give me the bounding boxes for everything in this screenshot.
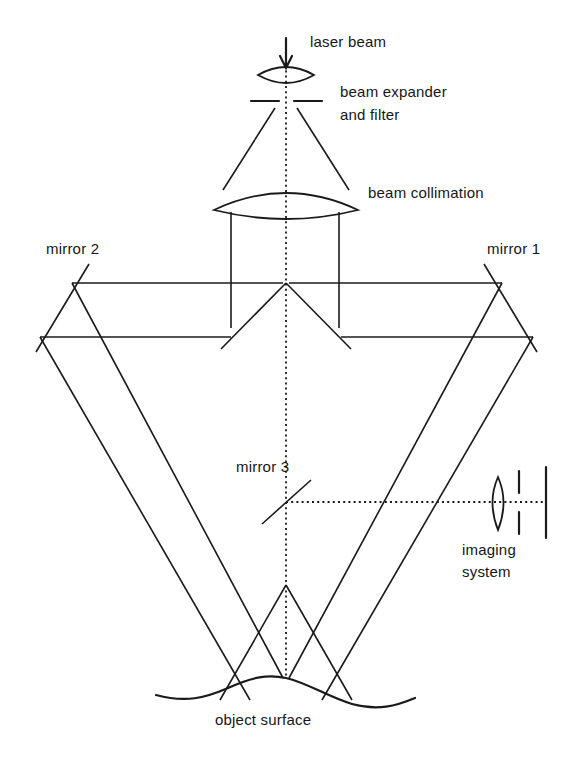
mirror-2 — [36, 264, 89, 352]
label-imaging-system-line1: imaging — [462, 540, 516, 560]
label-mirror-3: mirror 3 — [236, 457, 289, 476]
collimated-beam-edges — [231, 212, 339, 328]
mirror-1 — [484, 264, 537, 352]
diagram-canvas — [0, 0, 588, 763]
label-beam-collimation: beam collimation — [368, 183, 484, 202]
left-outer-beam — [72, 283, 283, 678]
label-and-filter: and filter — [340, 105, 400, 125]
label-beam-expander: beam expander — [340, 82, 447, 102]
label-mirror-1: mirror 1 — [487, 239, 540, 258]
object-surface — [156, 676, 415, 707]
label-object-surface: object surface — [215, 710, 311, 729]
laser-beam-arrow — [280, 38, 292, 68]
label-mirror-2: mirror 2 — [46, 239, 99, 258]
imaging-lens — [493, 477, 504, 530]
left-inner-beam — [40, 337, 250, 700]
right-outer-beam — [289, 283, 502, 678]
optical-diagram: laser beam beam expander and filter beam… — [0, 0, 588, 763]
label-laser-beam: laser beam — [310, 32, 386, 51]
label-imaging-system-line2: system — [462, 562, 511, 582]
